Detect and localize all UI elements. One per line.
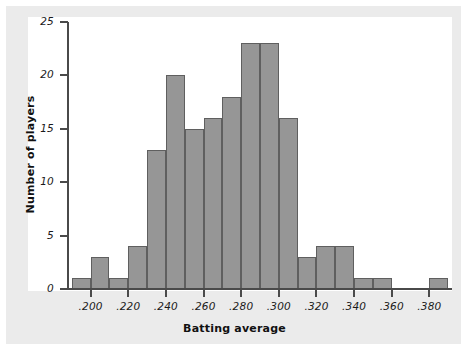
x-axis-tick [391,290,393,297]
x-axis-tick-label: .360 [380,300,404,312]
x-axis-tick-label: .260 [191,300,215,312]
x-axis-tick [203,290,205,297]
y-axis-tick-label: 25 [28,15,54,27]
x-axis-tick-label: .320 [304,300,328,312]
y-axis-line [67,22,69,289]
x-axis-tick-label: .200 [78,300,102,312]
x-axis-tick [90,290,92,297]
x-axis-tick [353,290,355,297]
x-axis-tick [165,290,167,297]
x-axis-tick [315,290,317,297]
y-axis-tick [60,288,68,290]
y-axis-tick [60,74,68,76]
histogram-figure: 0510152025 .200.220.240.260.280.300.320.… [0,0,469,357]
x-axis-tick [240,290,242,297]
x-axis-tick-label: .380 [417,300,441,312]
y-axis-tick [60,181,68,183]
x-axis-tick [278,290,280,297]
y-axis-tick [60,235,68,237]
axes-area: 0510152025 .200.220.240.260.280.300.320.… [0,0,469,357]
x-axis-tick [428,290,430,297]
x-axis-tick-label: .240 [154,300,178,312]
y-axis-label: Number of players [24,65,37,245]
x-axis-tick-label: .220 [116,300,140,312]
x-axis-tick-label: .340 [342,300,366,312]
x-axis-tick-label: .300 [267,300,291,312]
y-axis-tick-label: 0 [28,282,54,294]
x-axis-tick-label: .280 [229,300,253,312]
x-axis-line [67,288,452,290]
y-axis-tick [60,128,68,130]
x-axis-label: Batting average [0,322,469,335]
x-axis-tick [127,290,129,297]
y-axis-tick [60,21,68,23]
